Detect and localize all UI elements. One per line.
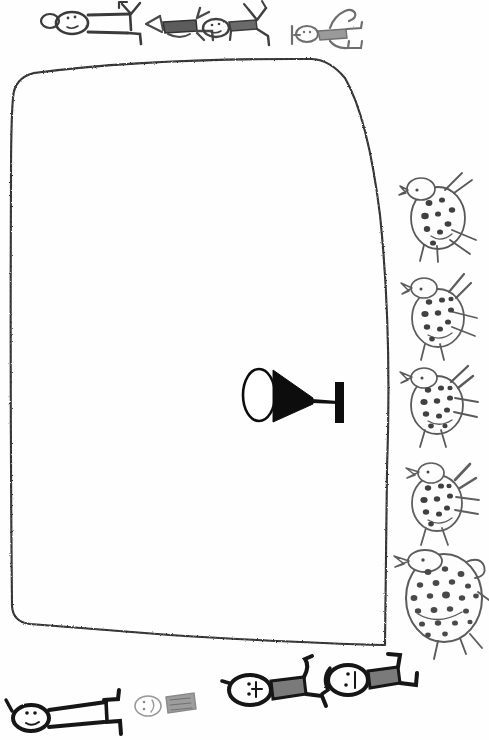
- drawing-svg: [0, 0, 489, 740]
- figure-eye-right: [33, 711, 37, 715]
- figure-eye-right: [247, 692, 251, 696]
- oval-outline: [243, 369, 275, 421]
- figure-eye-right: [344, 683, 348, 687]
- animal-eye: [421, 558, 424, 561]
- drawing-canvas: Child's pencil drawing: animal pen with …: [0, 0, 489, 740]
- figure-eye-left: [25, 711, 29, 715]
- figure-torso-bottom: [88, 32, 128, 33]
- figure-eye-right: [74, 16, 77, 19]
- figure-torso-shaded: [271, 677, 306, 699]
- figure-arm-left: [222, 681, 229, 683]
- figure-leg-2: [230, 31, 231, 40]
- figure-eye-left: [143, 701, 146, 704]
- figure-eye-right: [309, 31, 311, 33]
- figure-eye-right: [143, 708, 146, 711]
- figure-torso-shaded: [318, 29, 347, 40]
- figure-torso-shaded: [163, 20, 197, 33]
- figure-torso-shaded: [368, 667, 400, 688]
- t-handle: [335, 382, 344, 423]
- figure-eye-left: [303, 31, 305, 33]
- animal-eye: [415, 188, 418, 191]
- animal-eye: [420, 288, 423, 291]
- figure-eye-left: [247, 682, 251, 686]
- animal-head: [418, 463, 444, 483]
- figure-eye-right: [218, 23, 221, 26]
- animal-eye: [427, 471, 430, 474]
- figure-torso-shaded: [229, 20, 257, 31]
- figure-eye-left: [67, 17, 70, 20]
- figure-eye-left: [346, 672, 350, 676]
- figure-hip: [130, 13, 131, 30]
- figure-hip: [106, 701, 107, 721]
- figure-torso-top: [88, 14, 130, 15]
- animal-head: [407, 178, 435, 200]
- animal-head: [411, 278, 437, 298]
- animal-head: [408, 550, 442, 572]
- figure-eye-left: [211, 24, 214, 27]
- animal-head: [411, 368, 437, 388]
- animal-eye: [421, 377, 424, 380]
